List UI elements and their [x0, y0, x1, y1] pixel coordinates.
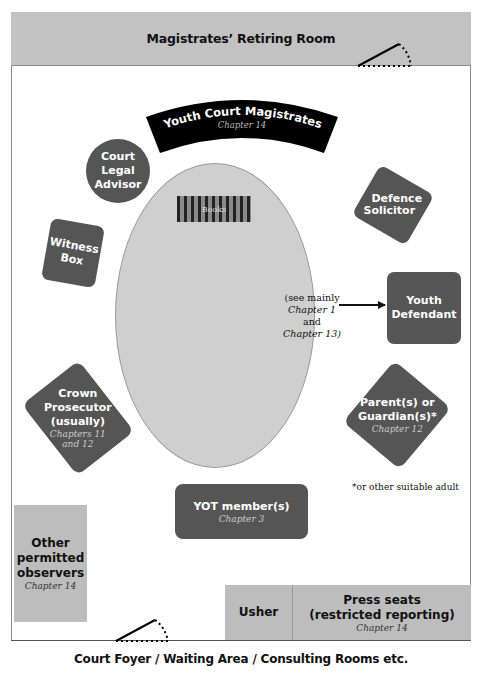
top-door-icon [355, 40, 415, 68]
court-foyer: Court Foyer / Waiting Area / Consulting … [11, 640, 471, 679]
area-usher: Usher [225, 585, 293, 640]
bench-chapter: Chapter 14 [218, 120, 267, 130]
area-press-seats: Press seats (restricted reporting) Chapt… [293, 585, 471, 640]
seat-witness-box: Witness Box [41, 218, 105, 288]
bottom-door-icon [113, 617, 173, 643]
arrow-icon [339, 304, 385, 306]
area-other-observers: Other permitted observers Chapter 14 [14, 505, 87, 622]
magistrates-bench: Youth Court Magistrates Chapter 14 [142, 95, 342, 157]
books-icon: Books [177, 196, 251, 222]
footnote: *or other suitable adult [352, 482, 459, 492]
defendant-chapter-note: (see mainly Chapter 1 and Chapter 13) [282, 292, 342, 340]
seat-yot-members: YOT member(s) Chapter 3 [175, 484, 308, 539]
foyer-label: Court Foyer / Waiting Area / Consulting … [11, 652, 471, 666]
seat-court-legal-advisor: Court Legal Advisor [86, 139, 150, 203]
seat-youth-defendant: Youth Defendant [387, 272, 461, 344]
